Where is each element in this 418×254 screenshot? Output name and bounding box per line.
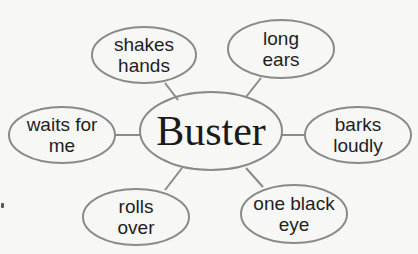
connector-long-ears bbox=[246, 78, 261, 97]
ellipse-one-black-eye bbox=[241, 185, 347, 243]
connector-one-black-eye bbox=[246, 168, 263, 187]
ellipse-barks-loudly bbox=[305, 107, 411, 163]
connector-rolls-over bbox=[165, 168, 182, 190]
ellipse-rolls-over bbox=[83, 189, 189, 245]
ellipse-center bbox=[140, 92, 282, 170]
word-web-diagram bbox=[0, 0, 418, 254]
ellipse-waits-for-me bbox=[9, 107, 115, 163]
ellipse-shakes-hands bbox=[92, 27, 196, 83]
ellipse-long-ears bbox=[228, 20, 334, 78]
node-outlines bbox=[9, 20, 411, 245]
connector-lines bbox=[115, 78, 305, 190]
stray-mark bbox=[1, 203, 4, 208]
